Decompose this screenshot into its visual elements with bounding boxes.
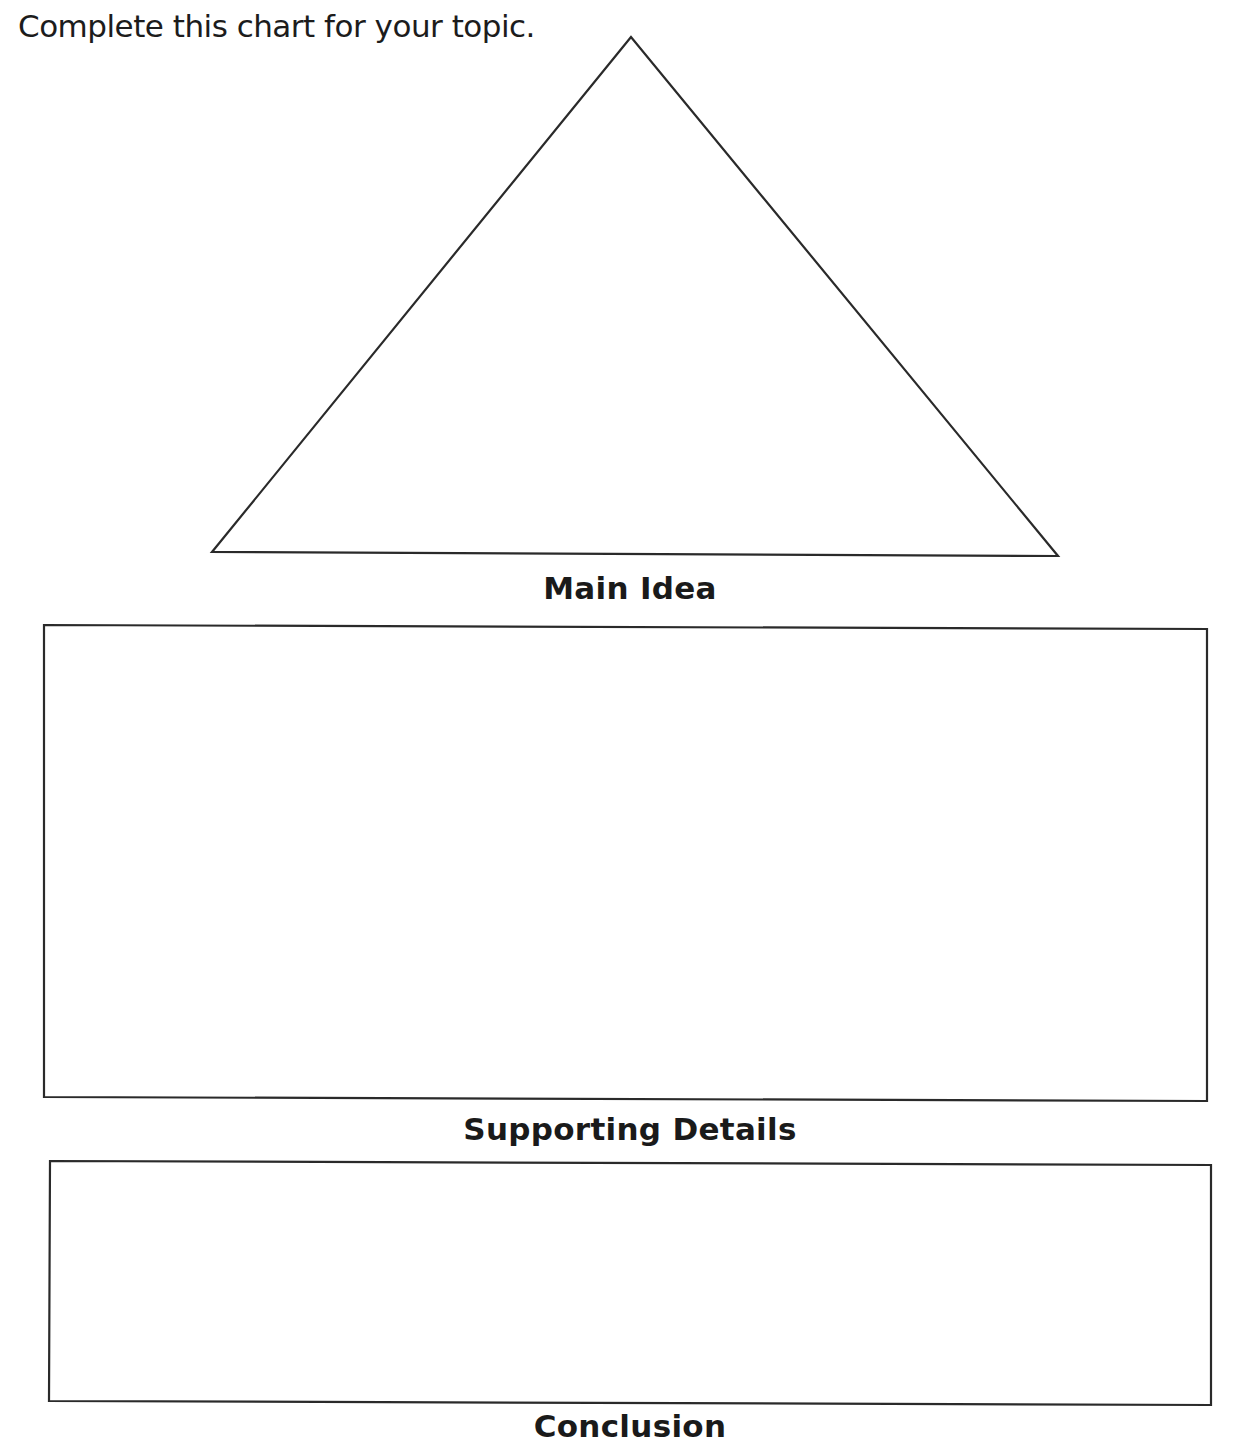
main-idea-label: Main Idea	[12, 570, 1236, 606]
conclusion-label: Conclusion	[12, 1408, 1236, 1441]
main-idea-triangle[interactable]	[212, 37, 1058, 556]
supporting-details-box[interactable]	[44, 625, 1207, 1101]
conclusion-box[interactable]	[49, 1161, 1211, 1405]
supporting-details-label: Supporting Details	[12, 1111, 1236, 1147]
